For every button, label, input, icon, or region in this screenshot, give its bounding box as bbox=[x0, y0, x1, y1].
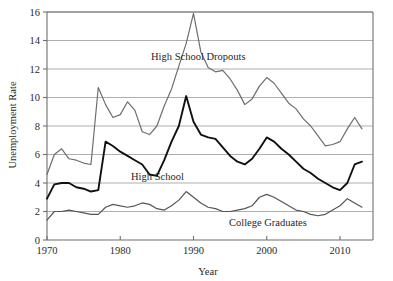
series-line-college-graduates bbox=[47, 192, 362, 221]
y-axis-title: Unemployment Rate bbox=[7, 81, 18, 169]
series-line-high-school-dropouts bbox=[47, 13, 362, 174]
y-tick-labels-group: 0246810121416 bbox=[30, 7, 41, 246]
y-tick-label: 16 bbox=[30, 7, 41, 18]
x-axis-title: Year bbox=[198, 266, 218, 277]
x-tick-label: 2010 bbox=[330, 245, 351, 256]
x-tick-labels-group: 19701980199020002010 bbox=[37, 245, 351, 256]
series-label-high-school-dropouts: High School Dropouts bbox=[151, 51, 246, 62]
x-tick-label: 1970 bbox=[37, 245, 58, 256]
chart-canvas: 0246810121416 19701980199020002010 Unemp… bbox=[0, 0, 393, 281]
series-label-high-school: High School bbox=[131, 171, 184, 182]
y-tick-label: 2 bbox=[35, 206, 40, 217]
y-tick-label: 4 bbox=[35, 178, 41, 189]
y-tick-label: 10 bbox=[30, 92, 41, 103]
unemployment-rate-chart: 0246810121416 19701980199020002010 Unemp… bbox=[0, 0, 393, 281]
y-tick-label: 0 bbox=[35, 235, 40, 246]
x-tick-label: 1980 bbox=[110, 245, 131, 256]
series-paths-group bbox=[47, 13, 362, 220]
x-tick-label: 2000 bbox=[256, 245, 277, 256]
y-tick-label: 6 bbox=[35, 149, 40, 160]
y-tick-label: 12 bbox=[30, 64, 41, 75]
y-tick-label: 14 bbox=[30, 35, 41, 46]
y-tick-label: 8 bbox=[35, 121, 40, 132]
series-label-college-graduates: College Graduates bbox=[229, 217, 307, 228]
x-tick-label: 1990 bbox=[183, 245, 204, 256]
